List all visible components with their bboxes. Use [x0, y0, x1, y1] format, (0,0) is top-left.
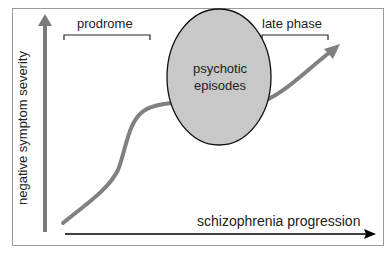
ellipse-label-line1: psychotic [193, 60, 247, 77]
ellipse-label: psychotic episodes [193, 60, 247, 94]
severity-curve [63, 103, 172, 223]
x-axis-label: schizophrenia progression [197, 213, 360, 229]
late-phase-bracket [262, 35, 328, 40]
prodrome-bracket [64, 35, 150, 40]
severity-curve-late [266, 52, 330, 100]
ellipse-label-line2: episodes [193, 77, 247, 94]
x-axis-arrow [65, 229, 376, 239]
late-phase-label: late phase [262, 16, 322, 31]
y-axis-arrow [38, 14, 52, 232]
prodrome-label: prodrome [77, 16, 133, 31]
y-axis-label: negative symptom severity [15, 51, 30, 205]
